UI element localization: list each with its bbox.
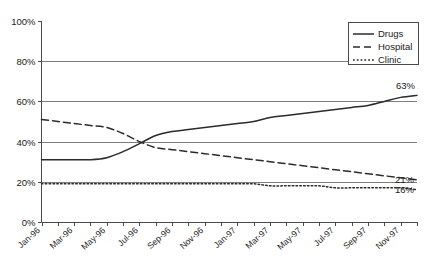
x-tick-label: Mar-97	[243, 225, 270, 251]
x-tick-label: Jul-96	[116, 225, 140, 248]
legend: DrugsHospitalClinic	[349, 23, 419, 66]
x-axis-tick-labels: Jan-96Mar-96May-96Jul-96Sep-96Nov-96Jan-…	[16, 225, 402, 252]
x-tick-label: May-96	[79, 225, 107, 252]
x-tick-label: Jul-97	[312, 225, 336, 248]
x-tick-label: Nov-96	[178, 225, 205, 251]
x-tick-label: Jan-97	[212, 225, 238, 250]
y-tick-label: 100%	[11, 16, 36, 27]
end-label-clinic: 16%	[395, 184, 415, 195]
legend-label-clinic: Clinic	[378, 54, 401, 65]
series-line-clinic	[42, 184, 418, 190]
end-label-drugs: 63%	[396, 80, 416, 91]
x-tick-label: Mar-96	[48, 225, 75, 251]
y-tick-label: 60%	[16, 96, 36, 107]
x-tick-label: Sep-96	[145, 225, 172, 251]
y-tick-label: 20%	[16, 177, 36, 188]
series-line-drugs	[42, 95, 418, 159]
gridlines	[42, 62, 418, 183]
y-tick-label: 40%	[16, 137, 36, 148]
y-axis-ticks	[38, 22, 42, 223]
y-axis-tick-labels: 0%20%40%60%80%100%	[11, 16, 36, 228]
x-tick-label: Sep-97	[341, 225, 368, 251]
x-tick-label: May-97	[275, 225, 303, 252]
y-tick-label: 80%	[16, 56, 36, 67]
line-chart: 0%20%40%60%80%100% Jan-96Mar-96May-96Jul…	[0, 0, 434, 270]
x-tick-label: Nov-97	[374, 225, 401, 251]
series-line-hospital	[42, 119, 418, 179]
legend-label-hospital: Hospital	[378, 41, 412, 52]
legend-label-drugs: Drugs	[378, 28, 404, 39]
chart-container: 0%20%40%60%80%100% Jan-96Mar-96May-96Jul…	[0, 0, 434, 270]
x-tick-label: Jan-96	[16, 225, 42, 250]
